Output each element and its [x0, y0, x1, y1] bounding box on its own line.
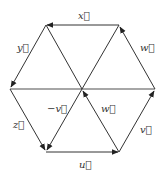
- label-v: v⃗: [140, 124, 152, 135]
- label-w-inner: w⃗: [101, 103, 116, 114]
- arrow-v: [119, 91, 154, 152]
- arrow-w-inner: [83, 91, 119, 152]
- hexagon-diagram: x⃗ y⃗ w⃗ z⃗ −v⃗ w⃗ v⃗ u⃗: [0, 0, 162, 177]
- label-z: z⃗: [12, 119, 24, 130]
- arrow-w-outer: [120, 27, 155, 89]
- label-u: u⃗: [79, 159, 91, 170]
- diagonal-tl-c: [46, 25, 82, 89]
- label-x: x⃗: [78, 10, 90, 21]
- label-neg-v: −v⃗: [47, 103, 67, 114]
- label-y: y⃗: [16, 42, 29, 53]
- arrow-neg-v: [47, 89, 82, 150]
- arrow-y: [11, 25, 46, 87]
- diagonal-tr-c: [82, 25, 119, 89]
- label-w-outer: w⃗: [140, 42, 155, 53]
